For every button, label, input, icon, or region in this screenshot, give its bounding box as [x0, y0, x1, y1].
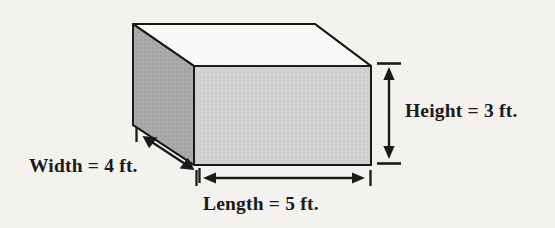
box-front-face — [194, 66, 371, 165]
length-label: Length = 5 ft. — [203, 194, 319, 214]
height-label: Height = 3 ft. — [405, 101, 517, 121]
width-label: Width = 4 ft. — [29, 156, 138, 176]
geometry-figure: Height = 3 ft. Width = 4 ft. Length = 5 … — [0, 0, 555, 228]
